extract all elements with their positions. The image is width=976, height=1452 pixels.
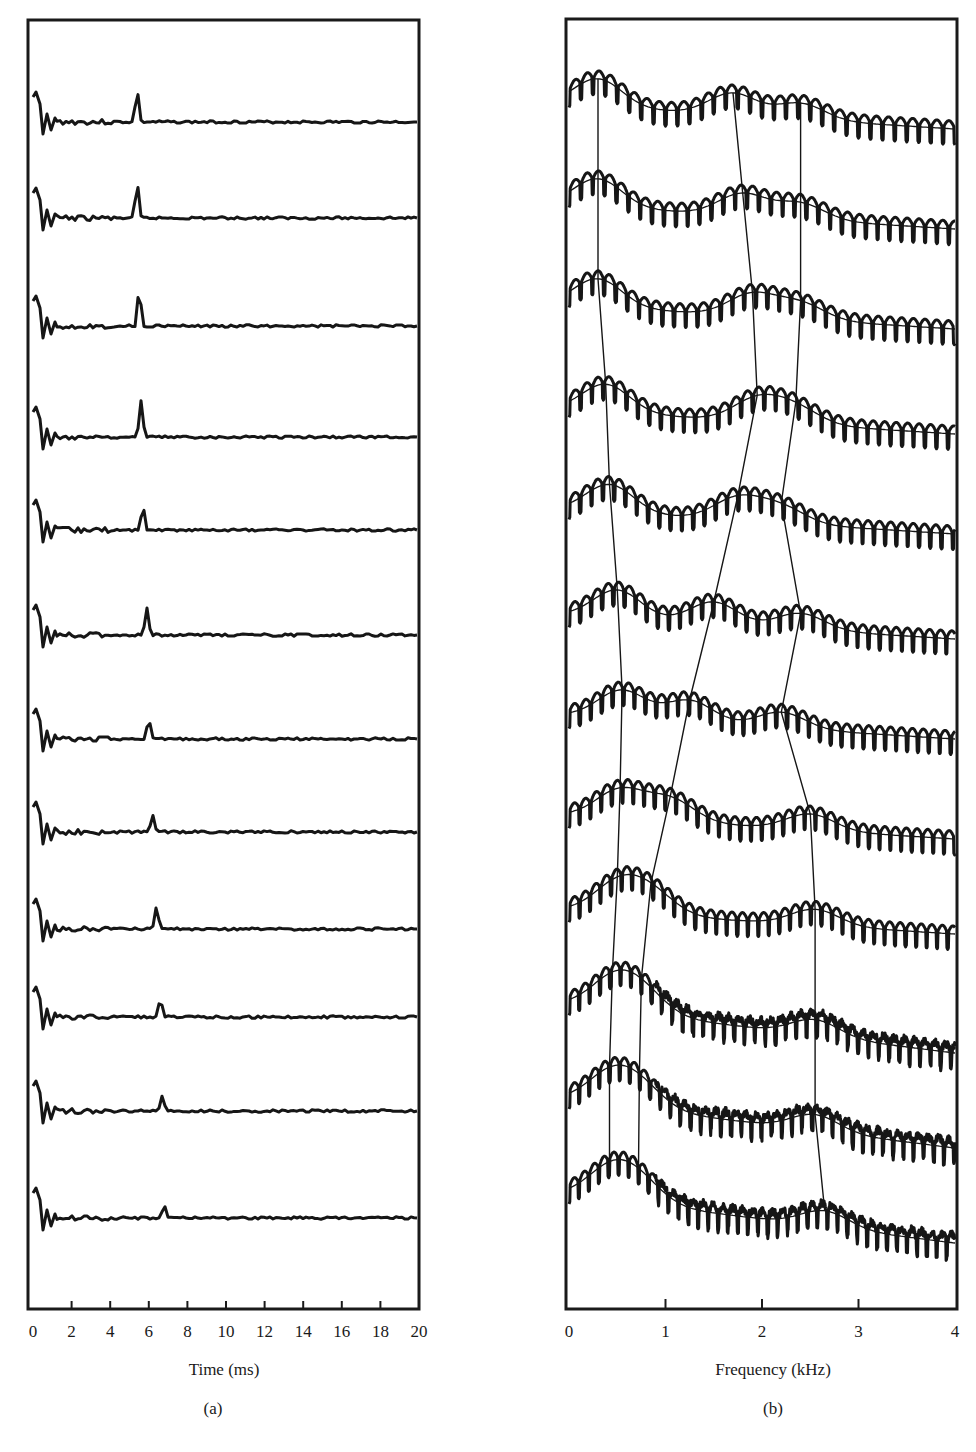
- x-tick-label: 4: [106, 1322, 115, 1341]
- waveform-trace: [33, 187, 417, 230]
- panel-a-waveforms: [33, 92, 417, 1230]
- harmonic-spectrum: [569, 962, 955, 1071]
- panel-a-label: (a): [204, 1399, 223, 1418]
- panel-a-frame: [28, 20, 419, 1309]
- panel-b: 01234 Frequency (kHz) (b): [565, 19, 960, 1418]
- waveform-trace: [33, 899, 417, 941]
- x-tick-label: 2: [67, 1322, 76, 1341]
- harmonic-spectrum: [569, 271, 955, 345]
- formant-track-f3: [781, 103, 824, 1211]
- x-tick-label: 10: [218, 1322, 235, 1341]
- x-tick-label: 20: [411, 1322, 428, 1341]
- x-tick-label: 8: [183, 1322, 192, 1341]
- x-tick-label: 3: [854, 1322, 863, 1341]
- harmonic-spectrum: [569, 1058, 955, 1166]
- panel-b-label: (b): [763, 1399, 783, 1418]
- waveform-trace: [33, 401, 417, 449]
- harmonic-spectrum: [569, 71, 955, 145]
- figure-canvas: 02468101214161820 Time (ms) (a) 01234 Fr…: [0, 0, 976, 1452]
- formant-track-f1: [598, 79, 622, 1162]
- harmonic-spectrum: [569, 171, 955, 245]
- harmonic-spectrum: [569, 377, 955, 450]
- waveform-trace: [33, 987, 417, 1029]
- harmonic-spectrum: [569, 682, 955, 754]
- panel-b-frame: [566, 19, 957, 1309]
- waveform-trace: [33, 1188, 417, 1230]
- x-tick-label: 1: [661, 1322, 670, 1341]
- x-tick-label: 18: [372, 1322, 389, 1341]
- waveform-trace: [33, 605, 417, 647]
- waveform-trace: [33, 709, 417, 751]
- waveform-trace: [33, 802, 417, 844]
- x-tick-label: 0: [565, 1322, 574, 1341]
- harmonic-spectrum: [569, 867, 955, 950]
- waveform-trace: [33, 296, 417, 338]
- x-tick-label: 0: [29, 1322, 38, 1341]
- waveform-trace: [33, 500, 417, 542]
- panel-b-spectra: [569, 71, 955, 1261]
- harmonic-spectrum: [569, 477, 955, 550]
- formant-track-f2: [639, 93, 758, 1168]
- waveform-trace: [33, 92, 417, 134]
- harmonic-spectrum: [569, 1152, 955, 1260]
- panel-b-formant-tracks: [598, 79, 825, 1211]
- harmonic-spectrum: [569, 582, 955, 654]
- x-tick-label: 16: [333, 1322, 350, 1341]
- harmonic-spectrum: [569, 780, 955, 855]
- panel-b-x-axis-title: Frequency (kHz): [715, 1360, 831, 1379]
- panel-a: 02468101214161820 Time (ms) (a): [28, 20, 428, 1418]
- x-tick-label: 2: [758, 1322, 767, 1341]
- x-tick-label: 14: [295, 1322, 313, 1341]
- x-tick-label: 4: [951, 1322, 960, 1341]
- x-tick-label: 12: [256, 1322, 273, 1341]
- x-tick-label: 6: [145, 1322, 154, 1341]
- figure-caption-cutoff: [190, 1444, 890, 1452]
- panel-b-x-axis-ticks: 01234: [565, 1299, 960, 1341]
- waveform-trace: [33, 1081, 417, 1123]
- panel-a-x-axis-ticks: 02468101214161820: [29, 1301, 428, 1341]
- panel-a-x-axis-title: Time (ms): [189, 1360, 260, 1379]
